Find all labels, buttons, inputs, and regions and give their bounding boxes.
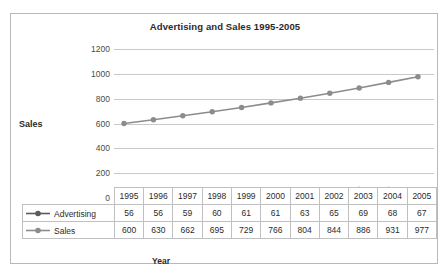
table-cell: 931 — [378, 222, 407, 239]
table-cell: 844 — [319, 222, 348, 239]
data-table: 1995199619971998199920002001200220032004… — [22, 187, 437, 239]
table-header-row: 1995199619971998199920002001200220032004… — [23, 188, 437, 205]
legend-item-label: Sales — [54, 225, 75, 235]
table-cell: 63 — [290, 205, 319, 222]
y-axis-tick-label: 1000 — [91, 69, 110, 79]
table-header-year: 1998 — [202, 188, 231, 205]
y-axis-tick-label: 400 — [96, 143, 110, 153]
data-point-marker — [415, 74, 420, 79]
table-header-year: 2004 — [378, 188, 407, 205]
table-header-year: 2002 — [319, 188, 348, 205]
data-point-marker — [151, 117, 156, 122]
data-point-marker — [180, 113, 185, 118]
table-cell: 766 — [261, 222, 290, 239]
y-axis-tick-label: 800 — [96, 94, 110, 104]
legend-item-advertising[interactable]: Advertising — [23, 205, 115, 222]
table-cell: 68 — [378, 205, 407, 222]
table-cell: 61 — [232, 205, 261, 222]
chart-container: Advertising and Sales 1995-2005 Sales 12… — [10, 13, 438, 264]
table-cell: 65 — [319, 205, 348, 222]
table-cell: 60 — [202, 205, 231, 222]
x-axis-title: Year — [11, 256, 311, 266]
table-header-year: 1999 — [232, 188, 261, 205]
table-row: Advertising5656596061616365696867 — [23, 205, 437, 222]
y-axis-title: Sales — [19, 119, 43, 129]
legend-item-label: Advertising — [54, 208, 96, 218]
table-cell: 69 — [349, 205, 378, 222]
data-point-marker — [327, 91, 332, 96]
table-cell: 630 — [144, 222, 173, 239]
table-cell: 977 — [407, 222, 436, 239]
y-axis-tick-label: 600 — [96, 119, 110, 129]
table-cell: 600 — [114, 222, 143, 239]
table-cell: 67 — [407, 205, 436, 222]
table-cell: 59 — [173, 205, 202, 222]
data-point-marker — [357, 85, 362, 90]
table-cell: 662 — [173, 222, 202, 239]
table-header-year: 2003 — [349, 188, 378, 205]
legend-marker-icon — [25, 226, 51, 235]
table-header-year: 1995 — [114, 188, 143, 205]
legend-marker-icon — [25, 209, 51, 218]
table-cell: 695 — [202, 222, 231, 239]
table-header-year: 1996 — [144, 188, 173, 205]
data-point-marker — [298, 95, 303, 100]
chart-title: Advertising and Sales 1995-2005 — [11, 21, 439, 32]
data-point-marker — [386, 80, 391, 85]
table-header-year: 2005 — [407, 188, 436, 205]
data-point-marker — [121, 121, 126, 126]
table-cell: 729 — [232, 222, 261, 239]
y-axis-tick-label: 1200 — [91, 44, 110, 54]
table-cell: 56 — [114, 205, 143, 222]
data-point-marker — [268, 100, 273, 105]
data-point-marker — [210, 109, 215, 114]
plot-area: 120010008006004002000 — [114, 49, 434, 198]
table-cell: 886 — [349, 222, 378, 239]
y-axis-tick-label: 200 — [96, 168, 110, 178]
series-lines — [114, 49, 434, 198]
table-header-year: 2000 — [261, 188, 290, 205]
data-point-marker — [239, 105, 244, 110]
table-cell: 61 — [261, 205, 290, 222]
legend-item-sales[interactable]: Sales — [23, 222, 115, 239]
series-line-sales — [124, 77, 418, 124]
table-header-year: 1997 — [173, 188, 202, 205]
table-corner-cell — [23, 188, 115, 205]
table-cell: 804 — [290, 222, 319, 239]
table-row: Sales600630662695729766804844886931977 — [23, 222, 437, 239]
table-header-year: 2001 — [290, 188, 319, 205]
table-cell: 56 — [144, 205, 173, 222]
